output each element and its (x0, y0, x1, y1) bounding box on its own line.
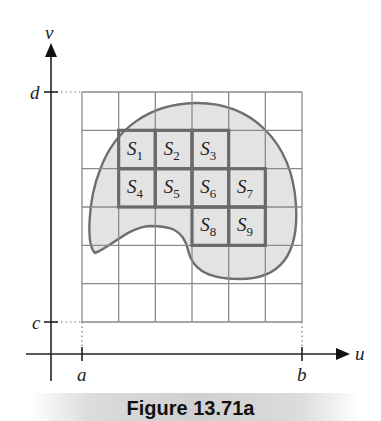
figure-caption: Figure 13.71a (0, 397, 381, 420)
v-axis-arrow-icon (45, 43, 57, 57)
tick-label-c: c (32, 312, 41, 333)
u-axis-arrow-icon (336, 348, 350, 360)
u-axis-label: u (355, 343, 365, 364)
figure-diagram: S1S2S3S4S5S6S7S8S9 v u d c a b (0, 0, 381, 421)
v-axis-label: v (45, 22, 54, 43)
tick-label-b: b (297, 364, 307, 385)
tick-label-d: d (30, 82, 40, 103)
tick-label-a: a (77, 364, 87, 385)
